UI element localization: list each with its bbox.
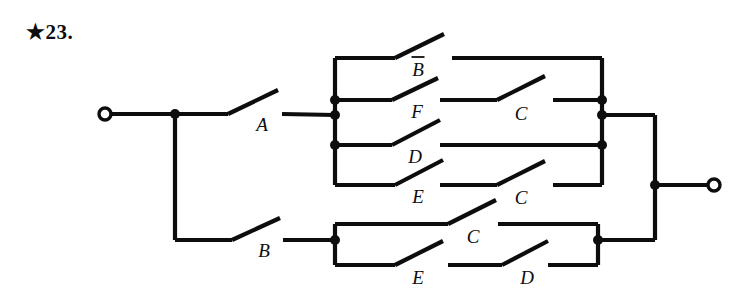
switch-f-blade[interactable] [392,78,438,100]
left-terminal[interactable] [99,108,111,120]
switch-e-upper-label: E [411,186,424,207]
switch-b-bar-label: B [412,59,424,80]
lower-left-bus-node-b [330,235,340,245]
figure-page: ★23. ABBFDECCCED [0,0,744,301]
switch-b-blade[interactable] [232,218,280,240]
switch-c-lower-blade[interactable] [448,200,496,224]
switch-a-label: A [254,114,268,135]
upper-left-bus-node-d [330,140,340,150]
switch-c-upper-blade[interactable] [497,76,545,100]
switch-a-blade[interactable] [228,90,278,114]
upper-right-bus-node-d [597,140,607,150]
switch-d-lower-blade[interactable] [502,241,548,265]
switch-d-lower-label: D [519,267,534,288]
upper-left-bus-node-a [330,110,340,120]
switch-c-upper-2-blade[interactable] [497,161,545,185]
circuit-diagram: ABBFDECCCED [0,0,744,301]
switch-a-out-to-upper-bus [282,114,335,115]
switch-c-upper-2-label: C [515,187,528,208]
lower-right-bus-node [593,235,603,245]
switch-blades-group [228,34,548,265]
upper-right-bus-node-out [597,110,607,120]
switch-b-bar-blade[interactable] [395,34,444,58]
switch-b-label: B [258,240,270,261]
output-merge-node [650,180,660,190]
upper-left-bus-node-f [330,95,340,105]
switch-e-lower-blade[interactable] [395,241,443,265]
input-split-node [170,109,180,119]
switch-d-upper-blade[interactable] [392,120,440,145]
upper-right-bus-node-f [597,95,607,105]
switch-d-upper-label: D [407,146,422,167]
right-terminal[interactable] [708,179,720,191]
switch-c-upper-label: C [515,103,528,124]
switch-e-lower-label: E [411,267,424,288]
switch-labels-group: ABBFDECCCED [254,57,534,288]
switch-f-label: F [410,101,423,122]
switch-c-lower-label: C [467,226,480,247]
